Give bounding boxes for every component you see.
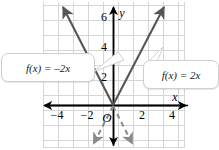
- x-axis-label: x: [171, 90, 178, 104]
- y-axis-label: y: [118, 6, 125, 20]
- x-tick-label-2: 2: [139, 108, 145, 122]
- y-tick-label-6: 6: [101, 10, 107, 24]
- y-tick-label-2: 2: [101, 70, 107, 84]
- y-tick-label-4: 4: [101, 40, 107, 54]
- x-tick-label-minus4: −4: [51, 108, 64, 122]
- figure-canvas: −4 −2 2 4 2 4 6 O x y f(x) = –2x f(x) = …: [0, 0, 219, 150]
- callout-left-equation: f(x) = –2x: [1, 53, 95, 82]
- x-tick-label-4: 4: [169, 108, 175, 122]
- x-tick-label-minus2: −2: [81, 108, 94, 122]
- callout-right-equation: f(x) = 2x: [143, 60, 219, 89]
- origin-label: O: [102, 110, 112, 125]
